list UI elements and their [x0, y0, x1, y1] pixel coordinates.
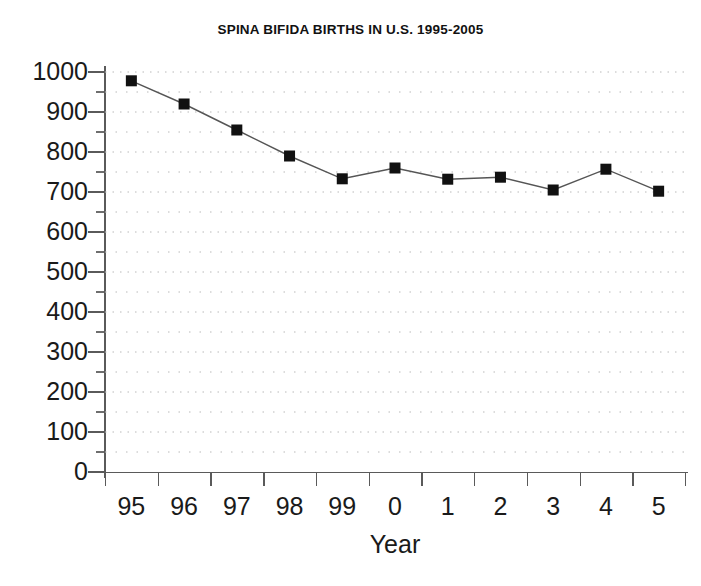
y-axis-minor-tick-mark: [96, 131, 104, 132]
y-axis-tick-label: 700: [6, 179, 88, 204]
data-point-marker: [600, 164, 611, 175]
y-axis-tick-label: 600: [6, 219, 88, 244]
x-axis-tick-mark: [421, 472, 422, 486]
data-point-marker: [179, 99, 190, 110]
x-axis-tick-mark: [632, 472, 633, 486]
data-point-marker: [126, 75, 137, 86]
plot-area: [105, 72, 685, 472]
y-axis-tick-mark: [88, 231, 104, 232]
y-axis-tick-label: 100: [6, 419, 88, 444]
y-axis-tick-mark: [88, 111, 104, 112]
y-axis-tick-label: 300: [6, 339, 88, 364]
y-axis-tick-mark: [88, 311, 104, 312]
chart-title: SPINA BIFIDA BIRTHS IN U.S. 1995-2005: [0, 22, 701, 37]
data-point-marker: [284, 151, 295, 162]
y-axis-minor-tick-mark: [96, 291, 104, 292]
x-axis-tick-label: 99: [312, 492, 372, 520]
data-point-marker: [390, 163, 401, 174]
y-axis-minor-tick-mark: [96, 251, 104, 252]
data-point-marker: [231, 125, 242, 136]
y-axis-tick-mark: [88, 431, 104, 432]
y-axis-tick-mark: [88, 271, 104, 272]
data-point-marker: [442, 174, 453, 185]
x-axis-tick-label: 0: [365, 492, 425, 520]
x-axis-tick-mark: [210, 472, 211, 486]
x-axis-tick-mark: [369, 472, 370, 486]
x-axis-tick-label: 97: [207, 492, 267, 520]
y-axis-tick-label: 0: [6, 459, 88, 484]
x-axis-tick-mark: [158, 472, 159, 486]
x-axis-tick-label: 98: [260, 492, 320, 520]
x-axis-tick-mark: [580, 472, 581, 486]
y-axis-tick-label: 900: [6, 99, 88, 124]
y-axis-tick-mark: [88, 351, 104, 352]
x-axis-tick-label: 5: [629, 492, 689, 520]
x-axis-tick-mark: [527, 472, 528, 486]
y-axis-minor-tick-mark: [96, 451, 104, 452]
y-axis-tick-mark: [88, 151, 104, 152]
x-axis-tick-mark: [316, 472, 317, 486]
x-axis-title: Year: [105, 530, 685, 559]
x-axis-tick-label: 2: [470, 492, 530, 520]
y-axis-tick-labels: 01002003004005006007008009001000: [0, 0, 88, 586]
data-point-marker: [337, 173, 348, 184]
x-axis-tick-label: 95: [101, 492, 161, 520]
data-point-marker: [495, 172, 506, 183]
y-axis-tick-label: 800: [6, 139, 88, 164]
y-axis-tick-mark: [88, 471, 104, 472]
x-axis-tick-mark: [105, 472, 106, 486]
y-axis-minor-tick-mark: [96, 171, 104, 172]
y-axis-tick-label: 400: [6, 299, 88, 324]
y-axis-tick-label: 500: [6, 259, 88, 284]
y-axis-minor-tick-mark: [96, 91, 104, 92]
y-axis-tick-label: 1000: [6, 59, 88, 84]
y-axis-minor-tick-mark: [96, 371, 104, 372]
y-axis-tick-label: 200: [6, 379, 88, 404]
data-series-spina-bifida-births: [126, 75, 664, 196]
x-axis-tick-mark: [474, 472, 475, 486]
x-axis-tick-label: 96: [154, 492, 214, 520]
series-line: [131, 81, 658, 191]
plot-svg: [105, 72, 685, 472]
x-axis-tick-mark: [685, 472, 686, 486]
y-axis-tick-mark: [88, 191, 104, 192]
y-axis-tick-mark: [88, 391, 104, 392]
x-axis-tick-label: 3: [523, 492, 583, 520]
data-point-marker: [653, 186, 664, 197]
y-axis-tick-mark: [88, 71, 104, 72]
x-axis-tick-label: 1: [418, 492, 478, 520]
y-axis-minor-tick-mark: [96, 211, 104, 212]
chart-container: SPINA BIFIDA BIRTHS IN U.S. 1995-2005 01…: [0, 0, 701, 586]
data-point-marker: [548, 185, 559, 196]
gridlines: [105, 72, 685, 452]
x-axis-tick-mark: [263, 472, 264, 486]
y-axis-minor-tick-mark: [96, 331, 104, 332]
x-axis-tick-label: 4: [576, 492, 636, 520]
y-axis-minor-tick-mark: [96, 411, 104, 412]
